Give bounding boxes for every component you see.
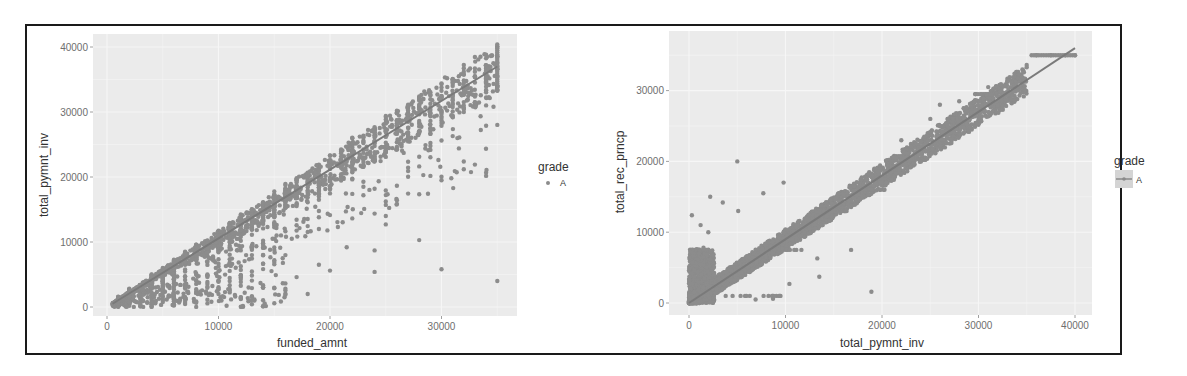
left-legend-entry: A	[560, 178, 566, 188]
data-point	[384, 222, 388, 226]
legend-point-icon	[546, 181, 550, 185]
data-point	[495, 279, 499, 283]
right-y-axis: 0100002000030000	[636, 85, 669, 308]
data-point	[439, 178, 443, 182]
data-point	[478, 55, 482, 59]
y-tick-label: 30000	[636, 85, 664, 96]
data-point	[439, 267, 443, 271]
left-legend: grade A	[538, 160, 569, 188]
data-point	[753, 297, 757, 301]
data-point	[928, 117, 932, 121]
x-tick-label: 20000	[868, 320, 896, 331]
data-point	[817, 275, 821, 279]
x-tick-label: 10000	[772, 320, 800, 331]
y-tick-label: 30000	[60, 107, 88, 118]
x-tick-label: 30000	[428, 321, 456, 332]
data-point	[417, 238, 421, 242]
y-tick-label: 10000	[636, 227, 664, 238]
data-point	[328, 268, 332, 272]
y-tick-label: 0	[658, 298, 664, 309]
right-legend-entry: A	[1136, 175, 1142, 185]
data-point	[708, 195, 712, 199]
data-point	[361, 193, 365, 197]
right-panel: 010000200003000040000 0100002000030000 t…	[613, 31, 1145, 350]
x-tick-label: 20000	[316, 321, 344, 332]
left-x-axis-title: funded_amnt	[277, 336, 348, 350]
data-point	[317, 263, 321, 267]
right-x-axis: 010000200003000040000	[686, 315, 1089, 331]
data-point	[283, 287, 287, 291]
data-point	[736, 209, 740, 213]
right-x-axis-title: total_pymnt_inv	[840, 336, 924, 350]
figure: 0100002000030000 010000200003000040000 f…	[0, 0, 1187, 376]
right-legend: grade A	[1114, 154, 1145, 188]
data-point	[345, 245, 349, 249]
y-tick-label: 0	[82, 302, 88, 313]
x-tick-label: 0	[104, 321, 110, 332]
data-point	[706, 230, 710, 234]
data-point	[869, 290, 873, 294]
legend-point-icon	[1122, 177, 1126, 181]
data-point	[815, 256, 819, 260]
data-point	[938, 103, 942, 107]
data-point	[986, 85, 990, 89]
y-tick-label: 20000	[636, 156, 664, 167]
data-point	[372, 248, 376, 252]
y-tick-label: 20000	[60, 172, 88, 183]
x-tick-label: 0	[686, 320, 692, 331]
right-y-axis-title: total_rec_prncp	[613, 130, 627, 213]
data-point	[957, 99, 961, 103]
data-point	[372, 270, 376, 274]
left-y-axis-title: total_pymnt_inv	[37, 133, 51, 217]
left-y-axis: 010000200003000040000	[60, 42, 93, 313]
x-tick-label: 40000	[1061, 320, 1089, 331]
left-legend-title: grade	[538, 160, 569, 174]
data-point	[701, 246, 705, 250]
data-point	[690, 213, 694, 217]
data-point	[849, 248, 853, 252]
right-legend-title: grade	[1114, 154, 1145, 168]
x-tick-label: 30000	[965, 320, 993, 331]
data-point	[781, 180, 785, 184]
data-point	[721, 200, 725, 204]
data-point	[306, 292, 310, 296]
data-point	[735, 159, 739, 163]
data-point	[761, 191, 765, 195]
left-x-axis: 0100002000030000	[104, 316, 456, 332]
data-point	[899, 138, 903, 142]
data-point	[294, 275, 298, 279]
data-point	[724, 294, 728, 298]
x-tick-label: 10000	[205, 321, 233, 332]
data-point	[771, 297, 775, 301]
data-point	[384, 214, 388, 218]
data-point	[698, 223, 702, 227]
left-panel: 0100002000030000 010000200003000040000 f…	[37, 34, 569, 350]
data-point	[787, 282, 791, 286]
y-tick-label: 10000	[60, 237, 88, 248]
y-tick-label: 40000	[60, 42, 88, 53]
